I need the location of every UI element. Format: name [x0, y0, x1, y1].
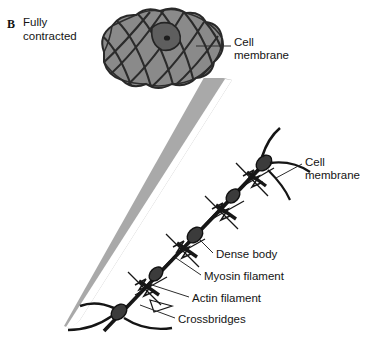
label-dense-body: Dense body: [216, 248, 277, 261]
leader-myosin-filament: [176, 258, 201, 275]
magnified-contractile-unit: [68, 128, 310, 331]
nucleus: [152, 23, 181, 51]
label-actin-filament: Actin filament: [192, 292, 261, 305]
label-cell-membrane-top: Cell membrane: [234, 36, 289, 62]
leader-cell-membrane-mid: [276, 164, 302, 178]
membrane-tail: [124, 318, 172, 329]
label-crossbridges: Crossbridges: [178, 313, 246, 326]
figure-root: B Fully contracted Cell membrane Cell me…: [0, 0, 378, 353]
panel-caption-line-2: contracted: [23, 30, 113, 44]
panel-letter: B: [7, 17, 15, 32]
label-cell-membrane-middle: Cell membrane: [305, 156, 360, 182]
crossbridge-cluster: [205, 196, 244, 229]
label-myosin-filament: Myosin filament: [204, 270, 284, 283]
membrane-tail: [262, 128, 280, 157]
panel-caption: Fully contracted: [23, 16, 113, 43]
panel-caption-line-1: Fully: [23, 16, 113, 30]
leader-dense-body: [200, 240, 213, 253]
membrane-tails: [68, 128, 310, 330]
nucleolus: [164, 35, 170, 40]
membrane-tail: [268, 170, 290, 200]
